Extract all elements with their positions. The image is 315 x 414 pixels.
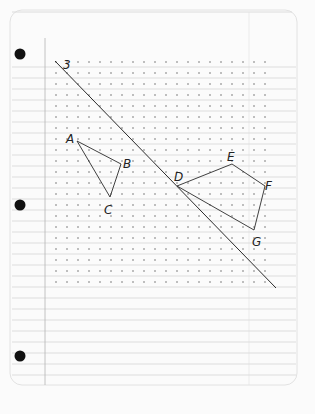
grid-dot [165, 61, 166, 62]
grid-dot [55, 83, 56, 84]
grid-dot [165, 72, 166, 73]
grid-dot [99, 182, 100, 183]
grid-dot [165, 171, 166, 172]
grid-dot [121, 127, 122, 128]
grid-dot [187, 61, 188, 62]
grid-dot [99, 226, 100, 227]
grid-dot [143, 248, 144, 249]
grid-dot [264, 160, 265, 161]
grid-dot [143, 226, 144, 227]
grid-dot [220, 259, 221, 260]
grid-dot [154, 281, 155, 282]
grid-dot [77, 204, 78, 205]
grid-dot [220, 94, 221, 95]
grid-dot [77, 270, 78, 271]
grid-dot [198, 61, 199, 62]
grid-dot [176, 193, 177, 194]
grid-dot [198, 215, 199, 216]
grid-dot [231, 193, 232, 194]
grid-dot [110, 94, 111, 95]
grid-dot [121, 83, 122, 84]
grid-dot [220, 160, 221, 161]
grid-dot [99, 94, 100, 95]
grid-dot [143, 270, 144, 271]
grid-dot [231, 127, 232, 128]
grid-dot [143, 193, 144, 194]
grid-dot [88, 116, 89, 117]
grid-dot [187, 94, 188, 95]
grid-dot [253, 72, 254, 73]
grid-dot [165, 270, 166, 271]
grid-dot [143, 281, 144, 282]
grid-dot [198, 83, 199, 84]
grid-dot [66, 127, 67, 128]
grid-dot [220, 204, 221, 205]
grid-dot [143, 204, 144, 205]
grid-dot [242, 204, 243, 205]
grid-dot [99, 83, 100, 84]
grid-dot [176, 138, 177, 139]
grid-dot [231, 270, 232, 271]
grid-dot [143, 83, 144, 84]
grid-dot [143, 127, 144, 128]
grid-dot [154, 270, 155, 271]
grid-dot [165, 237, 166, 238]
grid-dot [143, 116, 144, 117]
grid-dot [66, 83, 67, 84]
grid-dot [154, 138, 155, 139]
grid-dot [220, 270, 221, 271]
grid-dot [55, 138, 56, 139]
grid-dot [187, 116, 188, 117]
grid-dot [121, 248, 122, 249]
grid-dot [264, 83, 265, 84]
grid-dot [55, 259, 56, 260]
grid-dot [99, 116, 100, 117]
grid-dot [264, 138, 265, 139]
grid-dot [88, 215, 89, 216]
grid-dot [242, 105, 243, 106]
grid-dot [77, 193, 78, 194]
grid-dot [77, 149, 78, 150]
grid-dot [110, 72, 111, 73]
vertex-label-e: E [227, 150, 235, 164]
grid-dot [121, 193, 122, 194]
grid-dot [253, 138, 254, 139]
grid-dot [187, 72, 188, 73]
grid-dot [88, 237, 89, 238]
grid-dot [220, 105, 221, 106]
grid-dot [165, 94, 166, 95]
grid-dot [77, 281, 78, 282]
grid-dot [110, 248, 111, 249]
vertex-label-g: G [252, 235, 261, 249]
grid-dot [198, 127, 199, 128]
paper-sheet [10, 10, 297, 385]
grid-dot [99, 138, 100, 139]
grid-dot [55, 105, 56, 106]
grid-dot [209, 270, 210, 271]
grid-dot [110, 259, 111, 260]
grid-dot [132, 204, 133, 205]
grid-dot [176, 237, 177, 238]
grid-dot [209, 105, 210, 106]
grid-dot [231, 138, 232, 139]
grid-dot [143, 138, 144, 139]
grid-dot [132, 171, 133, 172]
grid-dot [198, 182, 199, 183]
grid-dot [132, 127, 133, 128]
grid-dot [242, 72, 243, 73]
grid-dot [110, 226, 111, 227]
grid-dot [165, 182, 166, 183]
grid-dot [209, 149, 210, 150]
grid-dot [154, 215, 155, 216]
grid-dot [220, 61, 221, 62]
grid-dot [77, 182, 78, 183]
grid-dot [209, 237, 210, 238]
grid-dot [187, 248, 188, 249]
grid-dot [143, 215, 144, 216]
grid-dot [88, 138, 89, 139]
vertex-label-c: C [104, 203, 113, 217]
grid-dot [242, 281, 243, 282]
grid-dot [209, 127, 210, 128]
grid-dot [176, 259, 177, 260]
grid-dot [99, 215, 100, 216]
